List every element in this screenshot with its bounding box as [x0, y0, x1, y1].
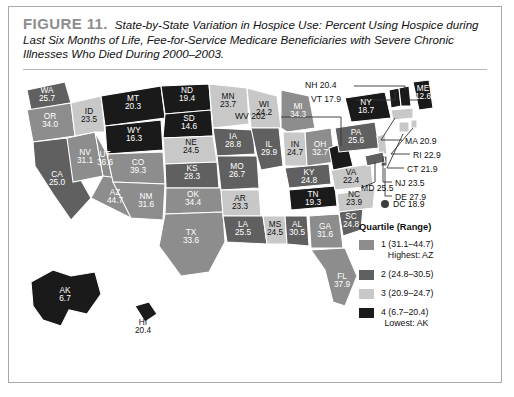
state-label-hi: HI20.4: [123, 318, 163, 335]
state-label-ny: NY18.7: [350, 98, 382, 115]
state-label-co: CO39.3: [122, 158, 154, 175]
state-label-ne: NE24.5: [175, 138, 207, 155]
legend-item-2[interactable]: 2 (24.8–30.5): [357, 269, 493, 280]
state-label-id: ID23.5: [73, 107, 105, 124]
state-label-la: LA25.5: [227, 220, 259, 237]
state-label-ia: IA28.8: [217, 132, 249, 149]
legend-swatch-2: [359, 270, 374, 280]
state-label-mt: MT20.3: [117, 94, 149, 111]
state-label-nd: ND19.4: [171, 86, 203, 103]
state-label-tn: TN19.3: [297, 190, 329, 207]
md-callout: MD 25.5: [361, 183, 393, 193]
legend-label-2: 2 (24.8–30.5): [381, 269, 433, 280]
figure-caption: FIGURE 11.State-by-State Variation in Ho…: [9, 7, 501, 62]
state-nj[interactable]: [377, 134, 387, 154]
choropleth-map: WA25.7OR34.0CA25.0NV31.1ID23.5MT20.3WY16…: [9, 70, 501, 370]
legend-note-1: Highest: AZ: [381, 250, 433, 261]
state-label-tx: TX33.6: [175, 228, 207, 245]
figure-panel: FIGURE 11.State-by-State Variation in Ho…: [8, 6, 502, 383]
legend-label-4: 4 (6.7–20.4)Lowest: AK: [381, 307, 428, 329]
legend-swatch-4: [359, 308, 374, 318]
state-label-me: ME12.6: [407, 84, 439, 101]
state-label-ky: KY24.8: [293, 168, 325, 185]
legend-swatch-3: [359, 289, 374, 299]
state-label-mi: MI34.3: [282, 102, 314, 119]
legend-label-3: 3 (20.9–24.7): [381, 288, 433, 299]
state-label-az: AZ44.7: [99, 188, 131, 205]
state-label-oh: OH32.7: [304, 140, 336, 157]
state-label-or: OR34.0: [34, 112, 66, 129]
state-label-sd: SD14.6: [173, 114, 205, 131]
state-label-wa: WA25.7: [31, 86, 63, 103]
state-ct[interactable]: [399, 122, 409, 132]
state-label-mo: MO26.7: [221, 162, 253, 179]
legend-swatch-1: [359, 240, 374, 250]
legend-note-4: Lowest: AK: [381, 318, 428, 329]
state-ma[interactable]: [391, 108, 413, 120]
legend-label-1: 1 (31.1–44.7)Highest: AZ: [381, 239, 433, 261]
dc-callout: DC 18.9: [381, 199, 425, 209]
legend-title: Quartile (Range): [359, 222, 493, 232]
state-label-ks: KS28.3: [176, 164, 208, 181]
leader-line-ct: [387, 134, 404, 168]
callout-nj: NJ 23.5: [395, 178, 425, 188]
state-label-wy: WY16.3: [118, 126, 150, 143]
figure-number: FIGURE 11.: [23, 15, 108, 32]
state-label-ca: CA25.0: [41, 170, 73, 187]
state-label-ar: AR23.3: [224, 194, 256, 211]
callout-ct: CT 21.9: [407, 164, 437, 174]
callout-ri: RI 22.9: [413, 150, 441, 160]
callout-nh: NH 20.4: [305, 80, 337, 90]
legend-item-1[interactable]: 1 (31.1–44.7)Highest: AZ: [357, 239, 493, 261]
state-label-ak: AK6.7: [49, 286, 81, 303]
legend-item-4[interactable]: 4 (6.7–20.4)Lowest: AK: [357, 307, 493, 329]
legend-items: 1 (31.1–44.7)Highest: AZ2 (24.8–30.5)3 (…: [357, 239, 493, 329]
state-label-nm: NM31.6: [130, 192, 162, 209]
legend: Quartile (Range) 1 (31.1–44.7)Highest: A…: [357, 222, 493, 337]
callout-wv: WV 202: [235, 111, 266, 121]
state-ri[interactable]: [411, 120, 417, 128]
callout-ma: MA 20.9: [405, 136, 437, 146]
legend-item-3[interactable]: 3 (20.9–24.7): [357, 288, 493, 299]
callout-vt: VT 17.9: [311, 94, 341, 104]
state-label-mn: MN23.7: [212, 92, 244, 109]
dc-label: DC 18.9: [393, 199, 425, 209]
state-label-ut: UT36.6: [89, 150, 121, 167]
state-label-pa: PA25.6: [340, 128, 372, 145]
state-label-ok: OK34.4: [177, 190, 209, 207]
dc-marker-icon: [381, 200, 389, 208]
state-label-fl: FL37.9: [326, 272, 358, 289]
